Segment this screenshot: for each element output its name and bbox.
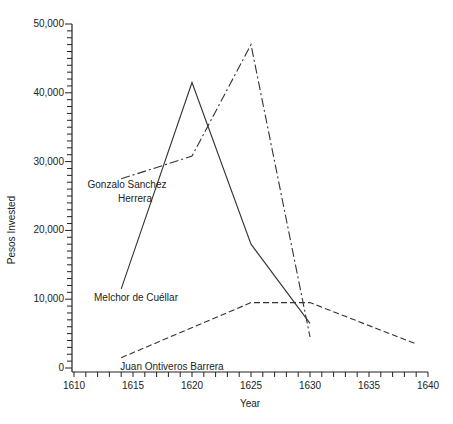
x-tick-label: 1615 bbox=[122, 380, 145, 391]
series-label: Juan Ontiveros Barrera bbox=[120, 361, 224, 372]
y-tick-label: 50,000 bbox=[33, 18, 64, 29]
x-tick-label: 1640 bbox=[417, 380, 440, 391]
series-label: Melchor de Cuéllar bbox=[94, 292, 179, 303]
y-axis: 010,00020,00030,00040,00050,000 bbox=[33, 18, 72, 373]
series-lines bbox=[121, 45, 416, 358]
line-chart: 010,00020,00030,00040,00050,000 16101615… bbox=[0, 0, 453, 424]
x-tick-label: 1610 bbox=[63, 380, 86, 391]
y-tick-label: 10,000 bbox=[33, 293, 64, 304]
y-tick-label: 0 bbox=[58, 362, 64, 373]
y-axis-title: Pesos Invested bbox=[6, 196, 17, 264]
series-label: Herrera bbox=[118, 193, 152, 204]
x-tick-label: 1635 bbox=[358, 380, 381, 391]
series-label: Gonzalo Sanchez bbox=[88, 179, 167, 190]
series-line-juan-ontiveros-barrera bbox=[121, 303, 416, 358]
x-axis: 1610161516201625163016351640 bbox=[63, 372, 440, 391]
y-tick-label: 20,000 bbox=[33, 224, 64, 235]
x-axis-title: Year bbox=[240, 398, 261, 409]
y-tick-label: 30,000 bbox=[33, 156, 64, 167]
x-tick-label: 1630 bbox=[299, 380, 322, 391]
y-tick-label: 40,000 bbox=[33, 87, 64, 98]
x-tick-label: 1620 bbox=[181, 380, 204, 391]
x-tick-label: 1625 bbox=[240, 380, 263, 391]
